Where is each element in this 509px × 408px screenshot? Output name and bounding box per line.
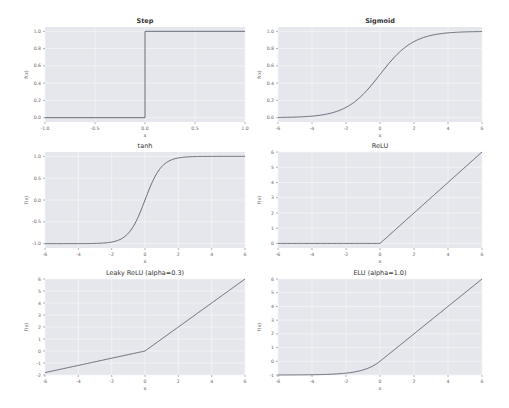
x-tick-label: -0.5 (91, 126, 100, 131)
x-tick-label: 4 (210, 252, 213, 257)
x-tick-label: 0 (379, 252, 382, 257)
y-tick-label: 6 (38, 277, 41, 282)
y-tick-label: 0.5 (34, 176, 41, 181)
y-tick-label: 5 (38, 289, 41, 294)
y-tick-label: 2 (271, 211, 274, 216)
y-tick-label: 2 (38, 325, 41, 330)
y-tick-label: 0.4 (267, 81, 274, 86)
x-tick-label: 2 (413, 126, 416, 131)
x-tick-label: -4 (76, 252, 81, 257)
y-tick-label: -1 (36, 361, 41, 366)
subplot-sigmoid: -6-4-202460.00.20.40.60.81.0 Sigmoid x f… (256, 17, 484, 138)
x-tick-label: -4 (310, 126, 315, 131)
x-tick-label: 2 (413, 252, 416, 257)
x-tick-label: 0.0 (141, 126, 148, 131)
subplot-elu: -6-4-20246-10123456 ELU (alpha=1.0) x f(… (256, 269, 484, 391)
y-tick-label: 0 (271, 359, 274, 364)
x-tick-label: 6 (481, 252, 484, 257)
y-tick-label: 1.0 (267, 29, 274, 34)
x-tick-label: 0 (144, 252, 147, 257)
x-tick-label: -6 (276, 379, 281, 384)
x-tick-label: -6 (43, 252, 48, 257)
subplot-title: tanh (138, 142, 153, 150)
x-axis-label: x (379, 132, 382, 138)
y-tick-label: 5 (271, 290, 274, 295)
subplot-leaky-relu: -6-4-20246-2-10123456 Leaky ReLU (alpha=… (23, 269, 247, 391)
y-axis-label: f(x) (256, 196, 262, 205)
y-tick-label: 0.2 (267, 98, 274, 103)
x-tick-label: 4 (447, 126, 450, 131)
y-tick-label: 0.6 (267, 63, 274, 68)
y-tick-label: 0.2 (34, 98, 41, 103)
x-axis-label: x (379, 258, 382, 264)
y-tick-label: 4 (38, 301, 41, 306)
y-tick-label: 6 (271, 150, 274, 155)
y-tick-label: 6 (271, 277, 274, 282)
y-tick-label: 3 (271, 318, 274, 323)
y-tick-label: 1 (38, 337, 41, 342)
x-tick-label: -2 (344, 379, 349, 384)
y-tick-label: 4 (271, 180, 274, 185)
y-tick-label: 0.8 (267, 46, 274, 51)
x-axis-label: x (144, 132, 147, 138)
x-tick-label: -6 (276, 252, 281, 257)
subplot-step: -1.0-0.50.00.51.00.00.20.40.60.81.0 Step… (23, 17, 249, 138)
subplot-title: Step (137, 17, 154, 25)
subplot-tanh: -6-4-20246-1.0-0.50.00.51.0 tanh x f(x) (23, 142, 247, 264)
y-axis-label: f(x) (256, 323, 262, 332)
subplot-title: Sigmoid (365, 17, 395, 25)
y-axis-label: f(x) (23, 70, 29, 79)
x-tick-label: -1.0 (41, 126, 50, 131)
y-tick-label: 1 (271, 226, 274, 231)
y-tick-label: 1 (271, 345, 274, 350)
x-tick-label: 1.0 (241, 126, 248, 131)
subplot-relu: -6-4-202460123456 ReLU x f(x) (256, 142, 484, 264)
x-tick-label: 4 (447, 252, 450, 257)
y-tick-label: 1.0 (34, 154, 41, 159)
x-tick-label: -2 (109, 379, 114, 384)
x-tick-label: 2 (177, 379, 180, 384)
y-axis-label: f(x) (256, 70, 262, 79)
x-tick-label: 0.5 (191, 126, 198, 131)
x-tick-label: 6 (244, 379, 247, 384)
x-tick-label: 2 (177, 252, 180, 257)
x-tick-label: 0 (144, 379, 147, 384)
y-tick-label: 0.8 (34, 46, 41, 51)
x-tick-label: -2 (344, 126, 349, 131)
y-tick-label: -2 (36, 373, 41, 378)
y-axis-label: f(x) (23, 323, 29, 332)
x-tick-label: -4 (310, 252, 315, 257)
y-tick-label: 0.0 (34, 198, 41, 203)
y-tick-label: 3 (38, 313, 41, 318)
x-tick-label: -6 (43, 379, 48, 384)
x-tick-label: 4 (447, 379, 450, 384)
y-tick-label: 0.6 (34, 63, 41, 68)
y-tick-label: 2 (271, 331, 274, 336)
x-tick-label: -6 (276, 126, 281, 131)
y-tick-label: -1 (269, 373, 274, 378)
y-axis-label: f(x) (23, 196, 29, 205)
x-tick-label: -4 (76, 379, 81, 384)
x-tick-label: 0 (379, 126, 382, 131)
y-tick-label: 4 (271, 304, 274, 309)
subplot-title: ReLU (372, 142, 389, 150)
x-axis-label: x (144, 385, 147, 391)
subplot-title: ELU (alpha=1.0) (353, 269, 406, 277)
x-tick-label: 2 (413, 379, 416, 384)
y-tick-label: 0.0 (267, 115, 274, 120)
x-tick-label: -4 (310, 379, 315, 384)
x-tick-label: -2 (109, 252, 114, 257)
y-tick-label: 0.0 (34, 115, 41, 120)
x-axis-label: x (144, 258, 147, 264)
y-tick-label: -1.0 (32, 241, 41, 246)
x-tick-label: 4 (210, 379, 213, 384)
y-tick-label: 0.4 (34, 81, 41, 86)
x-tick-label: 6 (481, 379, 484, 384)
x-tick-label: 6 (244, 252, 247, 257)
subplot-title: Leaky ReLU (alpha=0.3) (106, 269, 184, 277)
y-tick-label: -0.5 (32, 219, 41, 224)
x-axis-label: x (379, 385, 382, 391)
y-tick-label: 3 (271, 195, 274, 200)
activation-functions-figure: -1.0-0.50.00.51.00.00.20.40.60.81.0 Step… (0, 0, 509, 408)
y-tick-label: 1.0 (34, 29, 41, 34)
